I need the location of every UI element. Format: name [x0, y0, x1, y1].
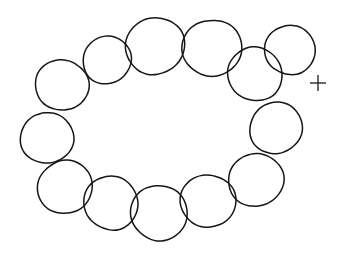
drawing-canvas: upper-leftleftlower-leftbottom-leftbotto… — [0, 0, 346, 272]
circle-ring-figure: upper-leftleftlower-leftbottom-leftbotto… — [0, 0, 346, 272]
canvas-background — [0, 0, 346, 272]
